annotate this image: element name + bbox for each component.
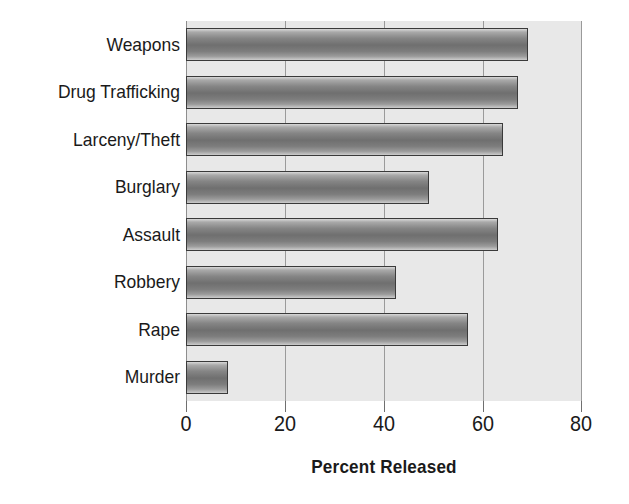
bar [186,123,503,156]
category-label: Murder [14,367,180,386]
bar [186,266,396,299]
plot-area [186,21,582,401]
x-tick-label-40: 40 [357,413,411,435]
bar [186,313,468,346]
bar [186,171,429,204]
x-axis-title: Percent Released [206,456,562,478]
category-label: Burglary [14,177,180,196]
category-label: Weapons [14,35,180,54]
bars-layer [186,21,582,401]
category-label: Larceny/Theft [14,130,180,149]
category-label: Robbery [14,272,180,291]
category-label: Assault [14,225,180,244]
x-tick-label-20: 20 [258,413,312,435]
chart-figure: 020406080 WeaponsDrug TraffickingLarceny… [0,0,629,504]
x-tick-label-80: 80 [554,413,608,435]
bar [186,28,528,61]
x-tick-label-60: 60 [456,413,510,435]
category-label: Drug Trafficking [14,82,180,101]
bar [186,218,498,251]
category-label: Rape [14,320,180,339]
y-axis-category-labels: WeaponsDrug TraffickingLarceny/TheftBurg… [0,0,180,504]
bar [186,76,518,109]
bar [186,361,228,394]
